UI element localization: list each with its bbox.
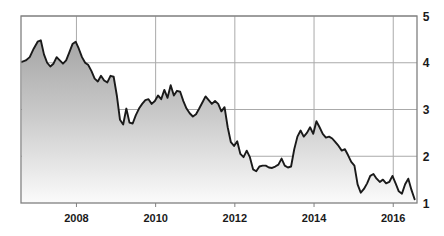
y-tick-label: 4 (423, 56, 430, 70)
x-tick-label: 2016 (381, 212, 405, 224)
y-tick-label: 1 (423, 197, 430, 211)
y-axis-labels: 12345 (423, 10, 430, 211)
x-tick-label: 2008 (64, 212, 88, 224)
chart-container: 20082010201220142016 12345 (0, 0, 444, 236)
y-tick-label: 5 (423, 10, 430, 24)
x-axis-labels: 20082010201220142016 (64, 203, 405, 224)
area-chart: 20082010201220142016 12345 (0, 0, 444, 236)
x-tick-label: 2014 (302, 212, 327, 224)
x-tick-label: 2012 (223, 212, 247, 224)
y-tick-label: 2 (423, 150, 430, 164)
y-tick-label: 3 (423, 103, 430, 117)
x-tick-label: 2010 (143, 212, 167, 224)
